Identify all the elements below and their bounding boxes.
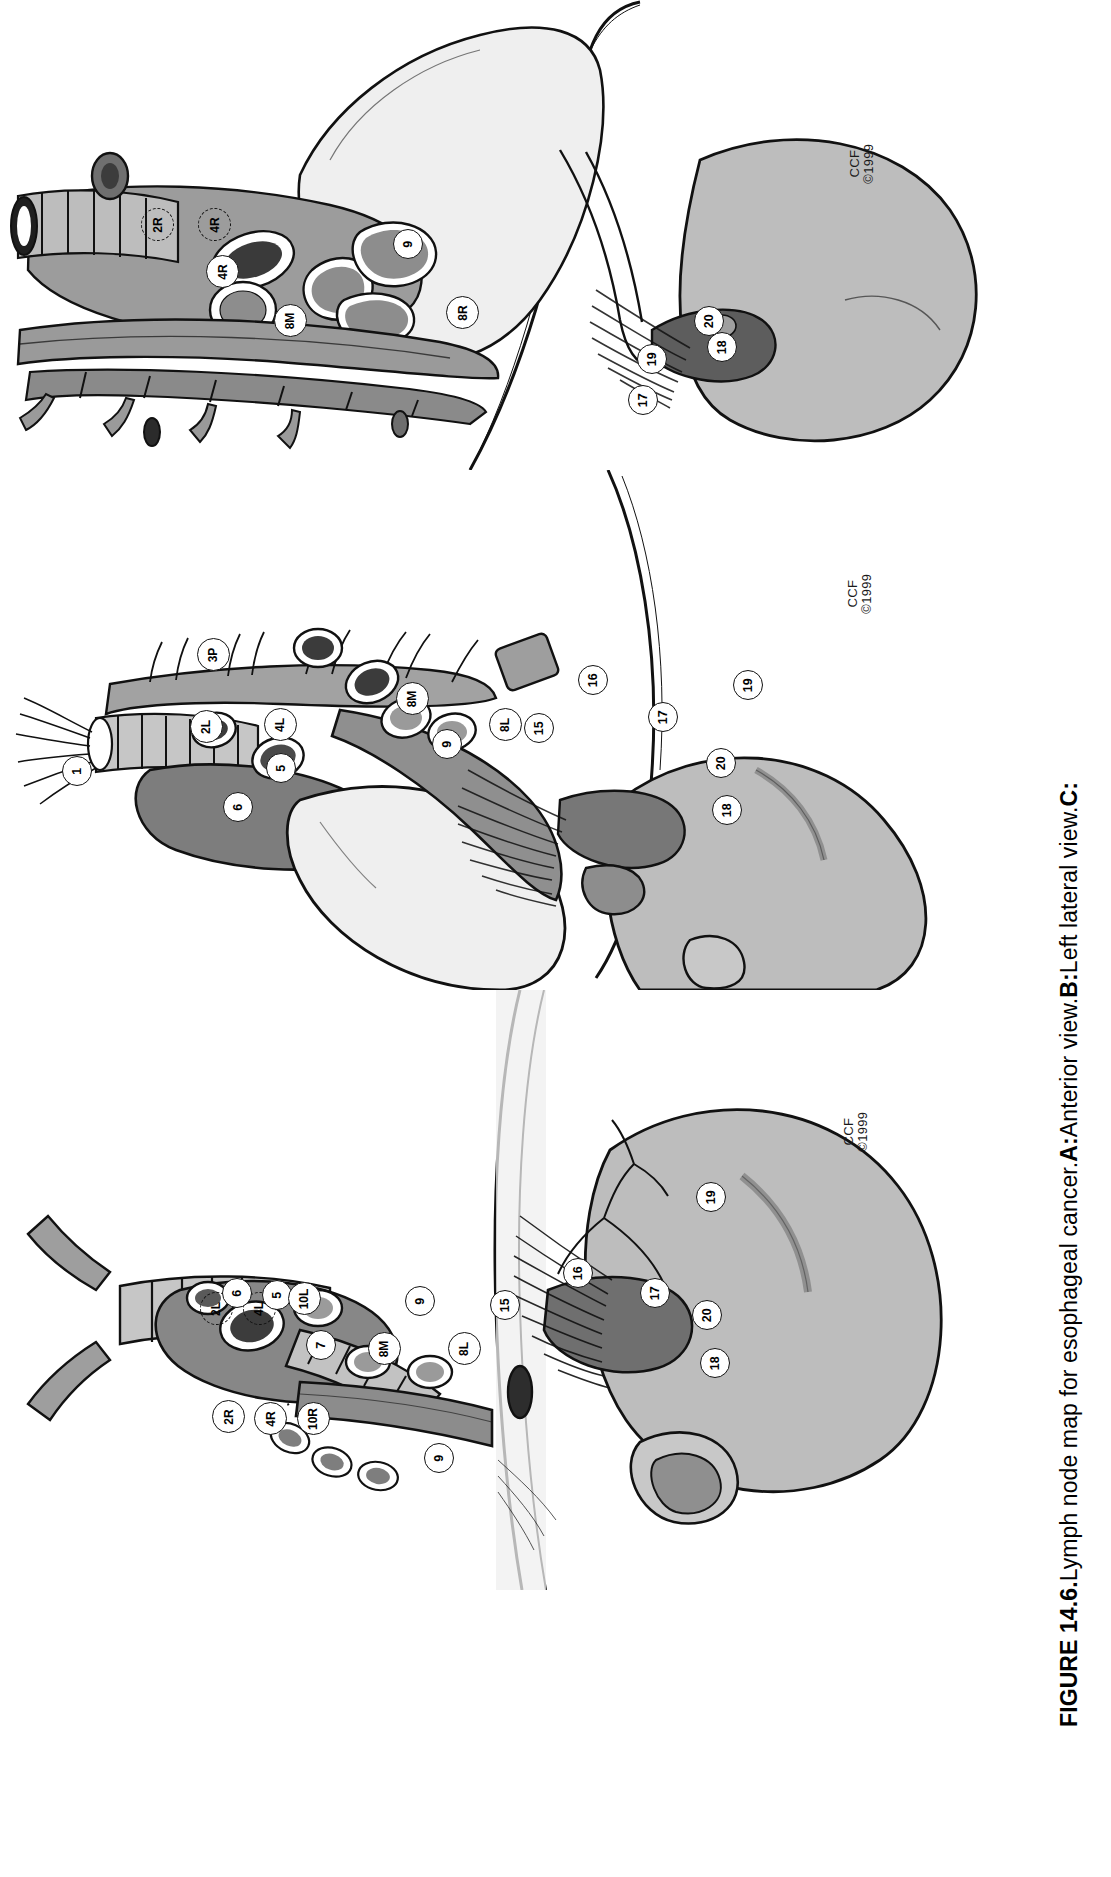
node-label-text: 19 bbox=[742, 678, 755, 692]
node-label-text: 8R bbox=[457, 305, 469, 320]
panel-c-right-lateral-view: CCF ©1999 2R 4R 4R 9 8M 8R 17 18 19 20 bbox=[0, 0, 1034, 470]
vertebrae-c bbox=[20, 370, 486, 448]
node-label-text: 8M bbox=[284, 312, 296, 329]
ccf-credit-line1: CCF bbox=[848, 144, 862, 184]
node-label-16-panel-b[interactable]: 16 bbox=[578, 665, 608, 695]
node-label-text: 15 bbox=[533, 721, 546, 735]
node-label-text: 10R bbox=[307, 1407, 319, 1429]
node-label-9-upper-panel-a[interactable]: 9 bbox=[405, 1286, 435, 1316]
node-label-20-panel-c[interactable]: 20 bbox=[694, 306, 724, 336]
node-label-10L-panel-a[interactable]: 10L bbox=[288, 1282, 321, 1315]
node-label-text: 9 bbox=[433, 1455, 446, 1462]
node-label-4L-panel-b[interactable]: 4L bbox=[264, 708, 297, 741]
node-label-17-panel-a[interactable]: 17 bbox=[640, 1278, 670, 1308]
ccf-credit-line2: ©1999 bbox=[856, 1112, 870, 1152]
node-label-5-panel-b[interactable]: 5 bbox=[266, 753, 296, 783]
figure-caption-a: Anterior view. bbox=[1056, 998, 1083, 1137]
node-label-2R-panel-a[interactable]: 2R bbox=[212, 1400, 245, 1433]
node-label-text: 3P bbox=[208, 647, 220, 662]
node-label-text: 16 bbox=[572, 1266, 585, 1280]
nerve-fan-b bbox=[16, 698, 96, 804]
node-label-15-panel-a[interactable]: 15 bbox=[490, 1290, 520, 1320]
node-label-18-panel-a[interactable]: 18 bbox=[700, 1348, 730, 1378]
panel-a-illustration bbox=[0, 990, 1034, 1590]
node-label-8M-panel-a[interactable]: 8M bbox=[368, 1332, 401, 1365]
node-label-text: 4R bbox=[209, 217, 221, 232]
node-label-4R-panel-a[interactable]: 4R bbox=[254, 1402, 287, 1435]
node-label-9-panel-b[interactable]: 9 bbox=[432, 729, 462, 759]
node-label-text: 17 bbox=[657, 710, 670, 724]
node-label-text: 8M bbox=[378, 1340, 390, 1357]
node-label-6-panel-a[interactable]: 6 bbox=[222, 1278, 252, 1308]
node-label-text: 7 bbox=[315, 1342, 328, 1349]
node-label-text: 2R bbox=[152, 217, 164, 232]
node-label-18-panel-c[interactable]: 18 bbox=[707, 332, 737, 362]
node-label-7-panel-a[interactable]: 7 bbox=[306, 1330, 336, 1360]
node-label-text: 2R bbox=[223, 1409, 235, 1424]
figure-page: CCF ©1999 2R 4R 4R 9 8M 8R 17 18 19 20 bbox=[0, 0, 1111, 1877]
node-label-text: 4R bbox=[217, 264, 229, 279]
node-label-4R-dashed-panel-c[interactable]: 4R bbox=[198, 208, 231, 241]
figure-caption-main: Lymph node map for esophageal cancer. bbox=[1056, 1162, 1083, 1582]
node-label-text: 20 bbox=[715, 756, 728, 770]
node-label-20-panel-b[interactable]: 20 bbox=[706, 748, 736, 778]
node-label-text: 1 bbox=[71, 768, 84, 775]
node-label-2R-panel-c[interactable]: 2R bbox=[141, 208, 174, 241]
node-label-text: 17 bbox=[637, 393, 650, 407]
node-label-6-panel-b[interactable]: 6 bbox=[223, 792, 253, 822]
node-label-18-panel-b[interactable]: 18 bbox=[712, 795, 742, 825]
panel-label-b: B: bbox=[1056, 973, 1083, 997]
ccf-credit-line1: CCF bbox=[846, 574, 860, 614]
node-label-text: 9 bbox=[402, 241, 415, 248]
node-label-8L-panel-b[interactable]: 8L bbox=[489, 708, 522, 741]
node-label-text: 4L bbox=[274, 717, 286, 731]
ccf-credit-line2: ©1999 bbox=[862, 144, 876, 184]
node-label-text: 6 bbox=[231, 1290, 244, 1297]
node-label-text: 5 bbox=[275, 765, 288, 772]
figure-caption-b: Left lateral view. bbox=[1056, 807, 1083, 974]
panel-label-a: A: bbox=[1056, 1137, 1083, 1161]
node-label-text: 6 bbox=[232, 804, 245, 811]
node-label-text: 18 bbox=[709, 1356, 722, 1370]
node-label-19-panel-b[interactable]: 19 bbox=[733, 670, 763, 700]
figure-caption: FIGURE 14.6. Lymph node map for esophage… bbox=[1034, 0, 1104, 1877]
panel-a-anterior-view: CCF ©1999 2R 2L 4R 4L 5 6 7 9 9 10R 10L … bbox=[0, 990, 1034, 1590]
node-label-text: 19 bbox=[646, 352, 659, 366]
node-label-3P-panel-b[interactable]: 3P bbox=[197, 638, 230, 671]
node-label-9-lower-panel-a[interactable]: 9 bbox=[424, 1443, 454, 1473]
node-label-4R-panel-c[interactable]: 4R bbox=[206, 255, 239, 288]
node-label-19-panel-c[interactable]: 19 bbox=[637, 344, 667, 374]
node-label-text: 18 bbox=[716, 340, 729, 354]
node-label-text: 5 bbox=[271, 1292, 284, 1299]
ccf-credit-panel-b: CCF ©1999 bbox=[846, 574, 873, 614]
node-label-19-panel-a[interactable]: 19 bbox=[696, 1182, 726, 1212]
node-label-1-panel-b[interactable]: 1 bbox=[62, 756, 92, 786]
node-label-9-panel-c[interactable]: 9 bbox=[393, 229, 423, 259]
node-label-text: 18 bbox=[721, 803, 734, 817]
node-label-8R-panel-c[interactable]: 8R bbox=[446, 296, 479, 329]
node-label-text: 19 bbox=[705, 1190, 718, 1204]
node-label-17-panel-b[interactable]: 17 bbox=[648, 702, 678, 732]
node-label-8M-panel-b[interactable]: 8M bbox=[396, 682, 429, 715]
node-label-15-panel-b[interactable]: 15 bbox=[524, 713, 554, 743]
panel-label-c: C: bbox=[1056, 782, 1083, 806]
node-label-text: 17 bbox=[649, 1286, 662, 1300]
panel-b-left-lateral-view: CCF ©1999 1 2L 3P 4L 5 6 8M 8L 9 15 16 1… bbox=[0, 470, 1034, 990]
node-label-20-panel-a[interactable]: 20 bbox=[692, 1300, 722, 1330]
node-label-16-panel-a[interactable]: 16 bbox=[563, 1258, 593, 1288]
node-label-8M-panel-c[interactable]: 8M bbox=[274, 304, 307, 337]
node-label-17-panel-c[interactable]: 17 bbox=[628, 385, 658, 415]
node-label-text: 4R bbox=[265, 1411, 277, 1426]
node-label-10R-panel-a[interactable]: 10R bbox=[297, 1402, 330, 1435]
node-label-text: 9 bbox=[441, 741, 454, 748]
node-label-text: 4L bbox=[253, 1301, 265, 1315]
node-label-text: 10L bbox=[299, 1288, 311, 1309]
node-label-text: 8M bbox=[406, 690, 418, 707]
figure-number: FIGURE 14.6. bbox=[1056, 1581, 1083, 1727]
ccf-credit-line1: CCF bbox=[842, 1112, 856, 1152]
node-label-2L-panel-b[interactable]: 2L bbox=[190, 710, 223, 743]
ccf-credit-line2: ©1999 bbox=[860, 574, 874, 614]
node-label-8L-panel-a[interactable]: 8L bbox=[448, 1332, 481, 1365]
node-label-text: 9 bbox=[414, 1298, 427, 1305]
ccf-credit-panel-a: CCF ©1999 bbox=[842, 1112, 869, 1152]
